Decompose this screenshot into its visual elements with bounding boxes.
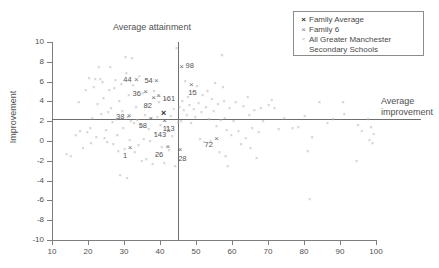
data-point [205, 106, 208, 109]
data-point [270, 99, 273, 102]
data-point [246, 96, 249, 99]
data-point [148, 140, 151, 143]
family-6-point [214, 135, 220, 143]
data-point [341, 101, 344, 104]
data-point [79, 130, 82, 133]
data-point [326, 122, 329, 125]
legend-label-family-average: Family Average [309, 15, 364, 25]
y-tick [47, 141, 52, 142]
x-tick-label: 90 [336, 248, 345, 256]
data-point [291, 127, 294, 130]
data-point [84, 89, 87, 92]
data-point [237, 130, 240, 133]
data-point [145, 158, 148, 161]
data-point [218, 151, 221, 154]
family-6-point-label: 58 [139, 122, 147, 130]
data-point [174, 165, 177, 168]
data-point [230, 134, 233, 137]
family-6-point [133, 76, 139, 84]
data-point [132, 84, 135, 87]
data-point [242, 105, 245, 108]
average-attainment-reference-line [178, 42, 179, 240]
average-improvement-label-line2: improvement [381, 107, 433, 118]
y-tick [47, 200, 52, 201]
x-tick-label: 60 [228, 248, 237, 256]
data-point [201, 94, 204, 97]
data-point [97, 66, 100, 69]
data-point [197, 102, 200, 105]
family-6-point-label: 38 [116, 113, 124, 121]
y-tick-label: 4 [40, 97, 44, 105]
data-point [147, 128, 150, 131]
data-point [308, 198, 311, 201]
data-point [117, 150, 120, 153]
legend-item-family-6: × Family 6 [299, 25, 339, 35]
y-tick [47, 42, 52, 43]
data-point [112, 143, 115, 146]
data-point [69, 155, 72, 158]
data-point [113, 87, 116, 90]
family-6-point-label: 15 [188, 89, 196, 97]
data-point [163, 162, 166, 165]
data-point [226, 165, 229, 168]
data-point [355, 160, 358, 163]
family-average-point [160, 109, 167, 118]
y-tick [47, 121, 52, 122]
data-point [259, 107, 262, 110]
data-point [86, 131, 89, 134]
y-tick [47, 161, 52, 162]
data-point [114, 79, 117, 82]
y-tick [47, 82, 52, 83]
family-6-point [143, 88, 149, 96]
x-tick-label: 30 [120, 248, 129, 256]
family-6-point [156, 92, 162, 100]
x-axis-line [52, 240, 376, 241]
x-tick [124, 240, 125, 245]
y-tick-label: -4 [37, 177, 44, 185]
data-point [102, 97, 105, 100]
x-tick [232, 240, 233, 245]
data-point [297, 126, 300, 129]
data-point [185, 114, 188, 117]
family-6-point-label: 54 [144, 77, 152, 85]
data-point [77, 101, 80, 104]
data-point [369, 126, 372, 129]
data-point [368, 139, 371, 142]
y-tick [47, 181, 52, 182]
x-tick-label: 100 [369, 248, 382, 256]
data-point [133, 151, 136, 154]
family-6-point [127, 144, 133, 152]
data-point [192, 108, 195, 111]
data-point [160, 146, 163, 149]
legend-marker-x-icon: × [299, 15, 308, 24]
family-6-point [179, 63, 185, 71]
data-point [200, 111, 203, 114]
y-tick-label: -8 [37, 216, 44, 224]
data-point [106, 141, 109, 144]
data-point [101, 81, 104, 84]
data-point [225, 129, 228, 132]
data-point [111, 121, 114, 124]
y-tick [47, 62, 52, 63]
data-point [198, 138, 201, 141]
data-point [89, 127, 92, 130]
data-point [224, 155, 227, 158]
x-tick [304, 240, 305, 245]
x-tick [160, 240, 161, 245]
data-point [172, 108, 175, 111]
data-point [120, 83, 123, 86]
legend-marker-x-icon: × [299, 25, 308, 34]
x-tick-label: 20 [84, 248, 93, 256]
data-point [95, 136, 98, 139]
data-point [140, 160, 143, 163]
data-point [142, 138, 145, 141]
data-point [88, 77, 91, 80]
legend: × Family Average × Family 6 × All Greate… [293, 11, 424, 56]
data-point [128, 139, 131, 142]
data-point [143, 114, 146, 117]
data-point [189, 122, 192, 125]
y-axis-title: Improvement [8, 72, 18, 162]
data-point [124, 56, 127, 59]
family-6-point-label: 36 [133, 90, 141, 98]
data-point [240, 143, 243, 146]
